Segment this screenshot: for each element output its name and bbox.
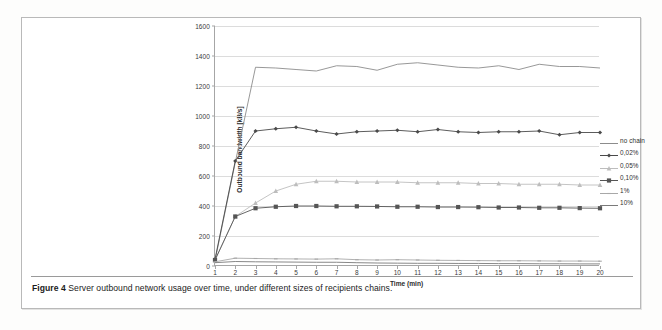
- x-tick-mark: [215, 266, 216, 269]
- x-tick-mark: [296, 266, 297, 269]
- figure-frame: Outbound bandwidth [kB/s] 02004006008001…: [21, 17, 641, 309]
- x-tick-label: 20: [596, 269, 603, 276]
- data-point-marker: [537, 206, 541, 210]
- data-point-marker: [517, 260, 521, 261]
- figure-caption-label: Figure 4: [32, 283, 66, 293]
- chart-legend: no chain0,02%0,05%0,10%1%10%: [599, 134, 662, 209]
- x-tick-mark: [499, 266, 500, 269]
- x-tick-mark: [316, 266, 317, 269]
- x-tick-mark: [397, 266, 398, 269]
- x-tick-label: 15: [495, 269, 502, 276]
- figure-page: Outbound bandwidth [kB/s] 02004006008001…: [0, 0, 662, 330]
- legend-swatch-diamond-icon: [599, 147, 619, 158]
- x-tick-label: 18: [556, 269, 563, 276]
- legend-label: 0,10%: [620, 174, 639, 181]
- data-point-marker: [334, 204, 338, 208]
- series-line: [215, 258, 600, 262]
- legend-label: 0,05%: [620, 162, 639, 169]
- x-tick-label: 13: [455, 269, 462, 276]
- x-tick-label: 16: [515, 269, 522, 276]
- y-tick-label: 200: [199, 233, 210, 240]
- y-tick-label: 0: [206, 263, 210, 270]
- legend-swatch-none-icon: [599, 197, 619, 208]
- legend-swatch-dash-icon: [599, 185, 619, 196]
- x-tick-label: 5: [294, 269, 298, 276]
- data-point-marker: [607, 154, 611, 158]
- x-tick-label: 7: [335, 269, 339, 276]
- legend-item[interactable]: no chain: [599, 134, 662, 147]
- x-tick-mark: [539, 266, 540, 269]
- data-point-marker: [233, 214, 237, 218]
- data-point-marker: [315, 259, 319, 260]
- data-point-marker: [396, 259, 400, 260]
- data-point-marker: [254, 258, 258, 259]
- data-point-marker: [517, 130, 521, 134]
- x-tick-label: 1: [213, 269, 217, 276]
- legend-label: 1%: [620, 187, 629, 194]
- x-tick-mark: [559, 266, 560, 269]
- data-point-marker: [476, 205, 480, 209]
- data-point-marker: [375, 129, 379, 133]
- data-point-marker: [497, 260, 501, 261]
- data-point-marker: [233, 258, 237, 259]
- data-point-marker: [537, 129, 541, 133]
- x-tick-label: 4: [274, 269, 278, 276]
- figure-caption-text: Server outbound network usage over time,…: [68, 283, 392, 293]
- data-point-marker: [456, 260, 460, 261]
- data-point-marker: [416, 205, 420, 209]
- legend-swatch-triangle-icon: [599, 160, 619, 171]
- data-point-marker: [294, 125, 298, 129]
- data-point-marker: [395, 128, 399, 132]
- data-point-marker: [558, 261, 562, 262]
- legend-item[interactable]: 10%: [599, 197, 662, 210]
- data-point-marker: [578, 206, 582, 210]
- x-tick-label: 17: [536, 269, 543, 276]
- data-point-marker: [395, 205, 399, 209]
- legend-swatch-square-icon: [599, 172, 619, 183]
- series-line: [215, 206, 600, 260]
- x-tick-mark: [418, 266, 419, 269]
- series-0-10-: [213, 204, 602, 262]
- data-point-marker: [557, 206, 561, 210]
- data-point-marker: [355, 130, 359, 134]
- data-point-marker: [436, 127, 440, 131]
- x-tick-mark: [600, 266, 601, 269]
- legend-item[interactable]: 0,05%: [599, 159, 662, 172]
- data-point-marker: [607, 179, 611, 183]
- y-tick-label: 1200: [195, 83, 210, 90]
- chart-area: Outbound bandwidth [kB/s] 02004006008001…: [107, 21, 627, 286]
- legend-item[interactable]: 0,02%: [599, 147, 662, 160]
- x-tick-mark: [357, 266, 358, 269]
- caption-divider: [31, 276, 633, 277]
- x-tick-label: 10: [394, 269, 401, 276]
- data-point-marker: [537, 260, 541, 261]
- y-tick-label: 1000: [195, 113, 210, 120]
- x-tick-label: 12: [434, 269, 441, 276]
- data-point-marker: [294, 204, 298, 208]
- data-point-marker: [497, 205, 501, 209]
- legend-item[interactable]: 1%: [599, 184, 662, 197]
- y-tick-label: 600: [199, 173, 210, 180]
- y-tick-label: 800: [199, 143, 210, 150]
- plot-box: 02004006008001000120014001600 1234567891…: [214, 26, 599, 266]
- data-point-marker: [274, 127, 278, 131]
- series-0-05-: [213, 179, 603, 263]
- data-point-marker: [578, 261, 582, 262]
- data-point-marker: [355, 259, 359, 260]
- x-tick-label: 14: [475, 269, 482, 276]
- x-tick-mark: [580, 266, 581, 269]
- data-point-marker: [274, 205, 278, 209]
- data-point-marker: [557, 133, 561, 137]
- series-line: [215, 262, 600, 264]
- x-tick-label: 11: [414, 269, 421, 276]
- data-point-marker: [253, 201, 258, 206]
- data-point-marker: [607, 193, 611, 194]
- x-tick-mark: [276, 266, 277, 269]
- legend-item[interactable]: 0,10%: [599, 172, 662, 185]
- legend-label: 0,02%: [620, 149, 639, 156]
- x-tick-mark: [438, 266, 439, 269]
- data-point-marker: [375, 204, 379, 208]
- legend-swatch-none-icon: [599, 135, 619, 146]
- x-tick-mark: [337, 266, 338, 269]
- data-point-marker: [517, 205, 521, 209]
